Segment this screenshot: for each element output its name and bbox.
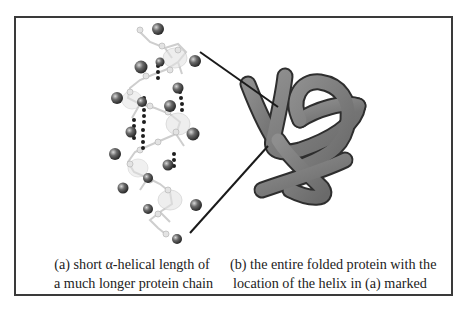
caption-panel-a: (a) short α-helical length of a much lon… — [54, 255, 210, 292]
caption-panel-b: (b) the entire folded protein with the l… — [230, 255, 430, 292]
caption-b-line1: (b) the entire folded protein with the — [230, 255, 430, 274]
alpha-helix-model — [109, 23, 202, 244]
caption-a-line1: (a) short α-helical length of — [54, 255, 210, 274]
caption-b-line2: location of the helix in (a) marked — [230, 274, 430, 293]
folded-protein-model — [248, 76, 358, 197]
caption-a-line2: a much longer protein chain — [54, 274, 210, 293]
